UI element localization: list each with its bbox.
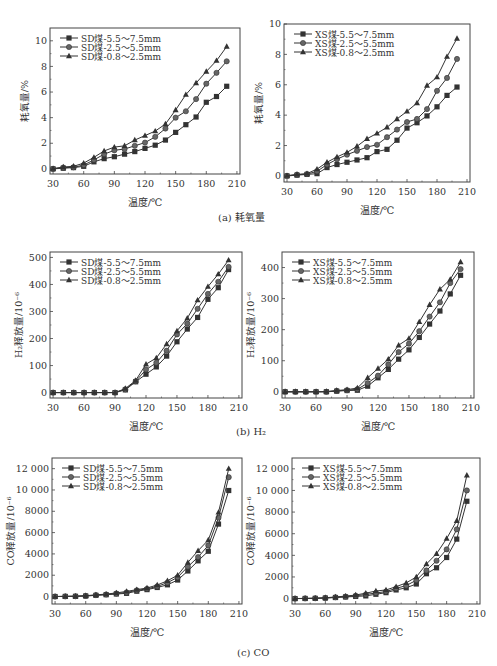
svg-text:SD煤-0.8～2.5mm: SD煤-0.8～2.5mm: [81, 51, 162, 62]
svg-text:SD煤-0.8～2.5mm: SD煤-0.8～2.5mm: [83, 481, 164, 492]
svg-text:90: 90: [109, 402, 121, 413]
svg-text:150: 150: [167, 178, 185, 189]
svg-text:6: 6: [275, 79, 281, 90]
svg-text:120: 120: [137, 402, 155, 413]
svg-text:10 000: 10 000: [16, 484, 49, 495]
svg-text:120: 120: [369, 402, 387, 413]
svg-text:90: 90: [341, 186, 353, 197]
svg-text:180: 180: [199, 608, 217, 619]
svg-text:60: 60: [310, 402, 322, 413]
svg-text:8: 8: [41, 61, 47, 72]
svg-text:SD煤-0.8～2.5mm: SD煤-0.8～2.5mm: [81, 275, 162, 286]
svg-text:8000: 8000: [265, 506, 289, 517]
svg-text:400: 400: [29, 279, 47, 290]
svg-text:H₂释放量/10⁻⁶: H₂释放量/10⁻⁶: [245, 292, 256, 358]
svg-text:400: 400: [261, 262, 279, 273]
chart-h2-sd: 3060901201501802100100200300400500温度/℃H₂…: [0, 244, 250, 422]
svg-text:30: 30: [279, 402, 291, 413]
svg-text:温度/℃: 温度/℃: [129, 420, 164, 432]
svg-text:6000: 6000: [265, 528, 289, 539]
svg-text:60: 60: [80, 608, 92, 619]
svg-text:10: 10: [269, 18, 281, 29]
svg-text:500: 500: [29, 252, 47, 263]
svg-text:60: 60: [319, 608, 331, 619]
caption-a: (a) 耗氧量: [218, 209, 265, 224]
svg-text:耗氧量/%: 耗氧量/%: [253, 82, 264, 124]
chart-oxygen-sd: 3060901201501802100246810温度/℃耗氧量/%SD煤-5.…: [0, 20, 250, 205]
svg-text:2000: 2000: [25, 569, 49, 580]
svg-text:6: 6: [41, 86, 47, 97]
svg-text:XS煤-0.8～2.5mm: XS煤-0.8～2.5mm: [315, 47, 395, 58]
svg-text:100: 100: [261, 355, 279, 366]
svg-text:210: 210: [462, 402, 480, 413]
svg-text:90: 90: [110, 608, 122, 619]
svg-text:温度/℃: 温度/℃: [130, 626, 165, 638]
svg-text:0: 0: [41, 387, 47, 398]
svg-text:12 000: 12 000: [16, 463, 49, 474]
svg-text:180: 180: [428, 186, 446, 197]
svg-text:210: 210: [230, 402, 248, 413]
svg-text:8000: 8000: [25, 505, 49, 516]
svg-text:180: 180: [197, 178, 215, 189]
svg-text:温度/℃: 温度/℃: [128, 196, 163, 208]
svg-text:0: 0: [275, 170, 281, 181]
svg-text:30: 30: [289, 608, 301, 619]
svg-text:150: 150: [407, 608, 425, 619]
svg-text:60: 60: [311, 186, 323, 197]
svg-text:30: 30: [281, 186, 293, 197]
svg-text:210: 210: [230, 608, 248, 619]
svg-text:温度/℃: 温度/℃: [361, 420, 396, 432]
svg-text:30: 30: [47, 402, 59, 413]
svg-text:90: 90: [341, 402, 353, 413]
chart-oxygen-xs: 3060901201501802100246810温度/℃耗氧量/%XS煤-5.…: [248, 14, 497, 205]
caption-c: (c) CO: [237, 647, 269, 658]
svg-text:120: 120: [138, 608, 156, 619]
svg-text:2: 2: [275, 140, 281, 151]
chart-svg: 3060901201501802100246810温度/℃耗氧量/%SD煤-5.…: [0, 20, 250, 205]
svg-text:210: 210: [458, 186, 476, 197]
svg-text:300: 300: [261, 293, 279, 304]
svg-text:210: 210: [468, 608, 486, 619]
svg-text:100: 100: [29, 360, 47, 371]
svg-text:2000: 2000: [265, 571, 289, 582]
svg-text:XS煤-0.8～2.5mm: XS煤-0.8～2.5mm: [313, 275, 393, 286]
svg-text:200: 200: [29, 333, 47, 344]
svg-text:300: 300: [29, 306, 47, 317]
svg-text:0: 0: [283, 593, 289, 604]
svg-text:CO释放量/10⁻⁶: CO释放量/10⁻⁶: [5, 496, 16, 565]
svg-text:6000: 6000: [25, 527, 49, 538]
chart-co-sd: 3060901201501802100200040006000800010 00…: [0, 452, 250, 637]
svg-text:180: 180: [199, 402, 217, 413]
svg-text:2: 2: [41, 137, 47, 148]
svg-text:30: 30: [47, 178, 59, 189]
svg-text:90: 90: [108, 178, 120, 189]
svg-text:120: 120: [377, 608, 395, 619]
svg-text:4: 4: [275, 109, 281, 120]
svg-text:0: 0: [41, 163, 47, 174]
svg-text:10: 10: [35, 35, 47, 46]
svg-text:CO释放量/10⁻⁶: CO释放量/10⁻⁶: [245, 496, 256, 565]
svg-text:8: 8: [275, 49, 281, 60]
svg-text:H₂释放量/10⁻⁶: H₂释放量/10⁻⁶: [13, 292, 24, 358]
chart-svg: 3060901201501802100100200300400500温度/℃H₂…: [0, 244, 250, 422]
svg-text:12 000: 12 000: [256, 463, 289, 474]
chart-svg: 3060901201501802100246810温度/℃耗氧量/%XS煤-5.…: [248, 14, 497, 205]
svg-text:0: 0: [43, 591, 49, 602]
svg-text:150: 150: [169, 608, 187, 619]
svg-text:4000: 4000: [25, 548, 49, 559]
svg-text:30: 30: [49, 608, 61, 619]
svg-text:150: 150: [400, 402, 418, 413]
svg-text:0: 0: [273, 386, 279, 397]
svg-text:温度/℃: 温度/℃: [360, 204, 395, 216]
svg-text:温度/℃: 温度/℃: [369, 626, 404, 638]
svg-text:60: 60: [78, 178, 90, 189]
caption-b: (b) H₂: [236, 426, 266, 437]
svg-text:150: 150: [398, 186, 416, 197]
svg-text:200: 200: [261, 324, 279, 335]
chart-svg: 3060901201501802100200040006000800010 00…: [0, 452, 250, 637]
svg-text:150: 150: [168, 402, 186, 413]
svg-text:10 000: 10 000: [256, 485, 289, 496]
svg-text:4000: 4000: [265, 550, 289, 561]
svg-text:4: 4: [41, 112, 47, 123]
chart-h2-xs: 3060901201501802100100200300400温度/℃H₂释放量…: [248, 244, 497, 422]
